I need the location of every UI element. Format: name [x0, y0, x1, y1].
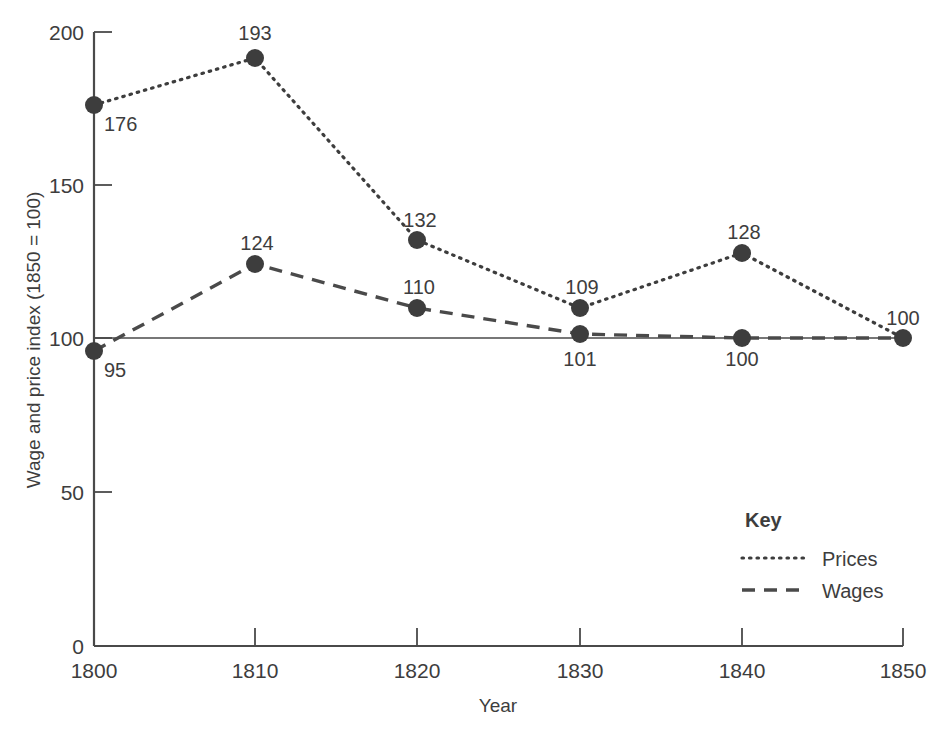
x-tick-label-1850: 1850 — [880, 659, 927, 682]
legend-label-prices: Prices — [822, 548, 878, 570]
value-label-wages-1840: 100 — [725, 348, 758, 370]
x-axis-title: Year — [479, 695, 518, 716]
data-point-prices-1820 — [408, 231, 426, 249]
data-point-prices-1850 — [894, 329, 912, 347]
data-point-prices-1800 — [85, 96, 103, 114]
x-tick-label-1820: 1820 — [394, 659, 441, 682]
data-point-wages-1810 — [246, 255, 264, 273]
y-tick-label-200: 200 — [49, 21, 84, 44]
value-label-prices-1820: 132 — [403, 209, 436, 231]
value-label-prices-1810: 193 — [238, 22, 271, 44]
y-tick-label-50: 50 — [61, 481, 84, 504]
value-label-prices-1800: 176 — [104, 113, 137, 135]
y-tick-label-100: 100 — [49, 327, 84, 350]
value-label-wages-1820: 110 — [403, 276, 435, 298]
data-point-prices-1840 — [733, 244, 751, 262]
x-tick-label-1810: 1810 — [232, 659, 279, 682]
data-point-wages-1830 — [571, 325, 589, 343]
data-point-wages-1820 — [408, 299, 426, 317]
x-tick-label-1830: 1830 — [557, 659, 604, 682]
x-tick-label-1800: 1800 — [71, 659, 118, 682]
legend-label-wages: Wages — [822, 580, 884, 602]
y-tick-label-150: 150 — [49, 174, 84, 197]
chart-background — [0, 0, 948, 729]
value-label-prices-1830: 109 — [565, 276, 598, 298]
data-point-prices-1810 — [246, 49, 264, 67]
value-label-prices-1850: 100 — [886, 307, 919, 329]
x-tick-label-1840: 1840 — [719, 659, 766, 682]
y-tick-label-0: 0 — [72, 635, 84, 658]
value-label-prices-1840: 128 — [727, 221, 760, 243]
data-point-wages-1800 — [85, 342, 103, 360]
y-axis-title: Wage and price index (1850 = 100) — [23, 192, 44, 489]
data-point-prices-1830 — [571, 299, 589, 317]
data-point-wages-1840 — [733, 329, 751, 347]
value-label-wages-1830: 101 — [563, 348, 596, 370]
value-label-wages-1810: 124 — [240, 232, 273, 254]
wage-price-index-line-chart: 200 150 100 50 0 1800 1810 1820 1830 184… — [0, 0, 948, 729]
chart-container: 200 150 100 50 0 1800 1810 1820 1830 184… — [0, 0, 948, 729]
legend-title: Key — [745, 509, 783, 531]
value-label-wages-1800: 95 — [104, 359, 126, 381]
